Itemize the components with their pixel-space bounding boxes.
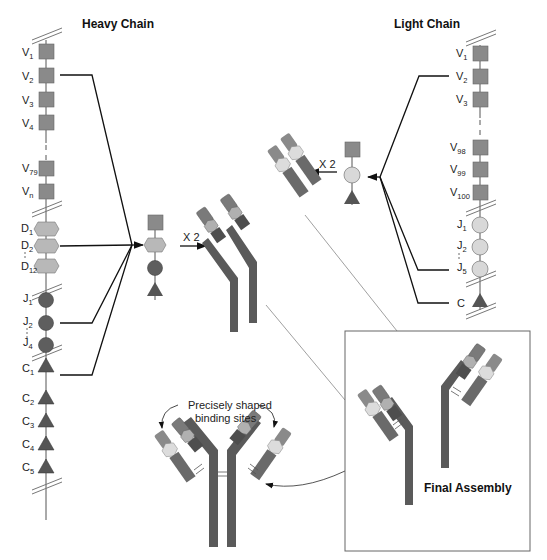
- svg-text:C5: C5: [22, 461, 34, 476]
- svg-text:J4: J4: [23, 336, 33, 351]
- svg-text:V2: V2: [22, 70, 34, 85]
- heavy-v2-segment: [39, 68, 54, 83]
- heavy-chain-labels: V1 V2 V3 V4 V79 Vn D1 D2 D12 J1 J2 J4 C1…: [21, 46, 38, 476]
- svg-text:J5: J5: [457, 261, 467, 276]
- light-chain-labels: V1 V2 V3 V98 V99 V100 J1 J2 J5 C: [450, 47, 470, 309]
- svg-text:J1: J1: [23, 292, 33, 307]
- svg-text:C1: C1: [22, 362, 34, 377]
- final-assembly-title: Final Assembly: [424, 481, 512, 495]
- svg-text:V3: V3: [456, 93, 468, 108]
- final-assembly-box: [345, 331, 530, 551]
- light-chain-pair: [265, 132, 322, 199]
- binding-sites-line2: binding sites: [195, 412, 257, 424]
- heavy-chain-title: Heavy Chain: [82, 17, 154, 31]
- svg-text:V1: V1: [456, 47, 468, 62]
- svg-text:D12: D12: [21, 260, 37, 275]
- antibody-assembly-diagram: Heavy Chain Light Chain: [0, 0, 547, 560]
- light-recombined-gene: [344, 142, 360, 205]
- svg-text:J2: J2: [23, 315, 33, 330]
- svg-text:J1: J1: [457, 218, 467, 233]
- svg-text:V100: V100: [450, 186, 470, 201]
- assembly-arrow: [266, 471, 345, 486]
- light-recombination-lines: [368, 76, 449, 303]
- svg-text:V99: V99: [450, 163, 466, 178]
- heavy-v79-segment: [39, 161, 54, 176]
- light-chain-locus: [466, 30, 496, 319]
- svg-text:C2: C2: [22, 392, 34, 407]
- svg-text:V98: V98: [450, 141, 466, 156]
- final-antibody: [152, 409, 292, 547]
- heavy-recombined-gene: [144, 215, 166, 300]
- svg-text:V3: V3: [22, 94, 34, 109]
- svg-text:V1: V1: [22, 46, 34, 61]
- heavy-v3-segment: [39, 92, 54, 107]
- heavy-v4-segment: [39, 115, 54, 130]
- svg-text:J2: J2: [457, 239, 467, 254]
- svg-text:C3: C3: [22, 415, 34, 430]
- light-chain-title: Light Chain: [394, 17, 460, 31]
- svg-text:V2: V2: [456, 70, 468, 85]
- heavy-recombination-lines: [60, 75, 143, 375]
- heavy-vn-segment: [39, 184, 54, 199]
- svg-text:V4: V4: [22, 117, 34, 132]
- svg-text:Vn: Vn: [22, 185, 34, 200]
- heavy-chain-pair: [195, 194, 257, 332]
- svg-text:D1: D1: [21, 222, 33, 237]
- svg-text:C4: C4: [22, 438, 34, 453]
- light-multiplier: X 2: [319, 158, 336, 170]
- svg-text:V79: V79: [22, 162, 38, 177]
- heavy-v1-segment: [39, 44, 54, 59]
- svg-text:D2: D2: [21, 239, 33, 254]
- svg-text:C: C: [457, 297, 465, 309]
- heavy-multiplier: X 2: [183, 231, 200, 243]
